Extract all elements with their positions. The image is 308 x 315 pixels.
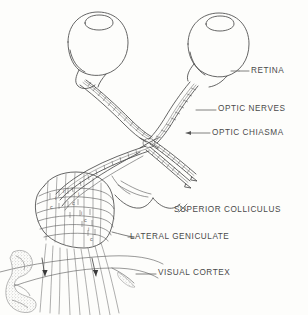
svg-text:c: c: [72, 200, 75, 206]
optic-tract-right: [146, 141, 197, 188]
label-visual-cortex: VISUAL CORTEX: [158, 269, 230, 277]
svg-text:i: i: [63, 188, 64, 194]
left-eye: [68, 12, 128, 89]
optic-nerve-left: [80, 80, 152, 142]
svg-text:i: i: [81, 210, 82, 216]
svg-text:c: c: [50, 204, 53, 210]
svg-text:i: i: [78, 191, 79, 197]
svg-text:c: c: [84, 217, 87, 223]
label-superior-colliculus: SUPERIOR COLLICULUS: [174, 206, 281, 214]
svg-text:c: c: [90, 236, 93, 242]
figure-canvas: .ln { fill:none; stroke:#4a4a4a; stroke-…: [0, 0, 308, 315]
right-eye: [187, 13, 249, 87]
label-lateral-geniculate: LATERAL GENICULATE: [130, 233, 229, 241]
lateral-geniculate-body: i i c i c i c i c: [35, 172, 114, 248]
label-retina: RETINA: [251, 67, 284, 75]
label-optic-chiasma: OPTIC CHIASMA: [212, 129, 284, 137]
visual-cortex-body: [6, 250, 135, 312]
visual-pathway-diagram: .ln { fill:none; stroke:#4a4a4a; stroke-…: [0, 0, 308, 315]
svg-text:i: i: [55, 195, 56, 201]
label-optic-nerves: OPTIC NERVES: [218, 105, 285, 113]
svg-text:i: i: [88, 226, 89, 232]
